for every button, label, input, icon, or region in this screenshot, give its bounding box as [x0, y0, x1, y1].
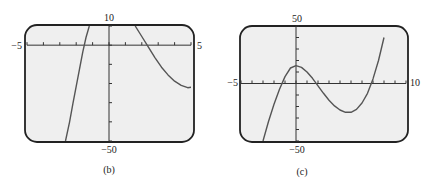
y-max-label-b: 10	[104, 12, 114, 23]
caption-c: (c)	[296, 166, 307, 178]
x-max-label-b: 5	[197, 40, 202, 51]
figure: 10 −50 −5 5 (b) 50 −50 −5 10 (c)	[0, 0, 424, 183]
caption-b: (b)	[103, 164, 115, 176]
panel-b: 10 −50 −5 5 (b)	[11, 12, 202, 176]
y-max-label-c: 50	[292, 13, 302, 24]
x-max-label-c: 10	[410, 77, 420, 88]
x-min-label-c: −5	[227, 77, 238, 88]
panel-c: 50 −50 −5 10 (c)	[227, 13, 420, 178]
y-min-label-c: −50	[289, 144, 305, 155]
x-min-label-b: −5	[11, 40, 22, 51]
y-min-label-b: −50	[101, 144, 117, 155]
